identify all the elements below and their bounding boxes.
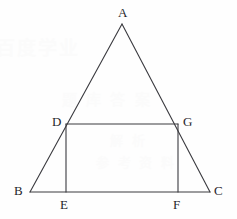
diagram-canvas bbox=[0, 0, 237, 219]
vertex-label-F: F bbox=[173, 198, 180, 211]
vertex-label-G: G bbox=[183, 115, 192, 128]
vertex-label-C: C bbox=[214, 184, 223, 197]
side-AB bbox=[30, 24, 122, 192]
vertex-label-D: D bbox=[52, 115, 61, 128]
vertex-label-B: B bbox=[14, 184, 23, 197]
geometry-figure: 百度学业 题 库 答 案 解 析 参 考 资 料 A B C D E F G bbox=[0, 0, 237, 219]
vertex-label-A: A bbox=[118, 6, 127, 19]
side-AC bbox=[122, 24, 210, 192]
segment-group bbox=[30, 24, 210, 192]
vertex-label-E: E bbox=[60, 198, 68, 211]
